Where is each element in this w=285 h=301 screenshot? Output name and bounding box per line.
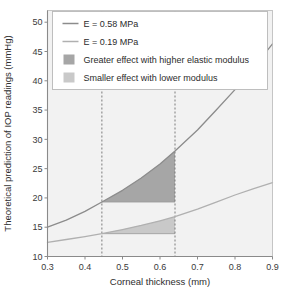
iop-corneal-thickness-chart: 1015202530354045500.30.40.50.60.70.80.9 … — [0, 0, 285, 301]
y-tick-label: 25 — [32, 164, 42, 174]
x-tick-label: 0.3 — [41, 262, 54, 272]
y-tick-label: 30 — [32, 135, 42, 145]
y-tick-label: 10 — [32, 252, 42, 262]
x-axis-title: Corneal thickness (mm) — [110, 276, 210, 287]
chart-legend: E = 0.58 MPaE = 0.19 MPaGreater effect w… — [53, 12, 268, 90]
legend-swatch-marker — [64, 55, 75, 65]
y-tick-label: 45 — [32, 47, 42, 57]
x-tick-label: 0.7 — [191, 262, 204, 272]
legend-label: E = 0.58 MPa — [84, 19, 139, 29]
x-tick-label: 0.5 — [116, 262, 129, 272]
legend-label: Smaller effect with lower modulus — [84, 73, 218, 83]
y-tick-label: 40 — [32, 76, 42, 86]
legend-label: Greater effect with higher elastic modul… — [84, 55, 250, 65]
y-tick-label: 15 — [32, 222, 42, 232]
x-tick-label: 0.8 — [229, 262, 242, 272]
y-tick-label: 20 — [32, 193, 42, 203]
chart-figure: 1015202530354045500.30.40.50.60.70.80.9 … — [0, 0, 285, 301]
x-tick-label: 0.9 — [266, 262, 279, 272]
y-tick-label: 50 — [32, 17, 42, 27]
x-tick-label: 0.6 — [154, 262, 167, 272]
x-tick-label: 0.4 — [79, 262, 92, 272]
legend-swatch-marker — [64, 73, 75, 83]
legend-label: E = 0.19 MPa — [84, 37, 139, 47]
y-axis-title: Theoretical prediction of IOP readings (… — [2, 35, 13, 231]
y-tick-label: 35 — [32, 105, 42, 115]
